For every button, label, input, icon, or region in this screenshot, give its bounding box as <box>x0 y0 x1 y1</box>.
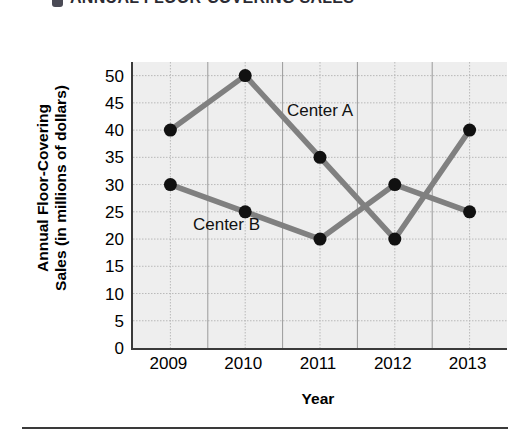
x-axis-tick-2011: 2011 <box>278 354 358 374</box>
line-chart-figure: Annual Floor-Covering Sales (in millions… <box>0 0 530 442</box>
x-axis-tick-2010: 2010 <box>203 354 283 374</box>
y-axis-tick-0: 0 <box>84 340 124 357</box>
data-point-center-a-2009 <box>164 124 177 137</box>
y-axis-title-line-2: Sales (in millions of dollars) <box>52 52 70 324</box>
data-point-center-b-2011 <box>314 233 327 246</box>
y-axis-tick-10: 10 <box>84 285 124 302</box>
footer-divider <box>22 427 508 429</box>
y-axis-title-line-1: Annual Floor-Covering <box>34 104 51 272</box>
data-point-center-a-2011 <box>314 151 327 164</box>
data-point-center-a-2012 <box>388 233 401 246</box>
y-axis-tick-labels: 50454035302520151050 <box>84 50 124 350</box>
x-axis-tick-2013: 2013 <box>428 354 508 374</box>
series-label-center-a: Center A <box>287 101 353 121</box>
y-axis-tick-35: 35 <box>84 149 124 166</box>
series-label-center-b: Center B <box>193 215 260 235</box>
x-axis-tick-2009: 2009 <box>128 354 208 374</box>
y-axis-tick-30: 30 <box>84 176 124 193</box>
data-point-center-b-2009 <box>164 178 177 191</box>
y-axis-tick-40: 40 <box>84 122 124 139</box>
x-axis-tick-2012: 2012 <box>353 354 433 374</box>
data-point-center-b-2012 <box>388 178 401 191</box>
y-axis-tick-5: 5 <box>84 312 124 329</box>
y-axis-tick-25: 25 <box>84 203 124 220</box>
y-axis-tick-20: 20 <box>84 231 124 248</box>
plot-area: Center ACenter B <box>131 62 507 350</box>
data-point-center-a-2013 <box>463 124 476 137</box>
x-axis-title: Year <box>131 390 505 408</box>
data-point-center-b-2013 <box>463 205 476 218</box>
x-axis-tick-labels: 20092010201120122013 <box>131 354 505 380</box>
y-axis-title: Annual Floor-Covering Sales (in millions… <box>34 52 70 324</box>
data-point-center-a-2010 <box>239 69 252 82</box>
y-axis-tick-45: 45 <box>84 94 124 111</box>
y-axis-tick-50: 50 <box>84 67 124 84</box>
y-axis-tick-15: 15 <box>84 258 124 275</box>
